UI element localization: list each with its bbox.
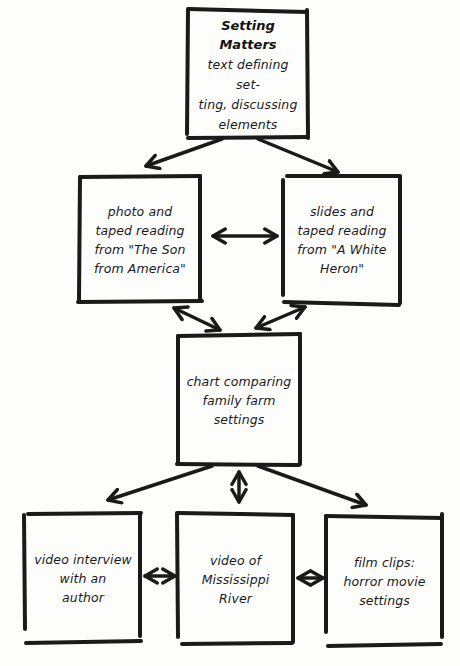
node-family-farm-chart: chart comparing family farm settings — [180, 338, 298, 462]
arrow-chart-to-film — [258, 466, 366, 505]
arrow-son-chart-bidirectional — [174, 308, 220, 330]
arrow-setting-to-son — [146, 139, 222, 166]
node-white-heron: slides and taped reading from "A White H… — [286, 180, 398, 300]
node-horror-film-clips-text: film clips: horror movie settings — [343, 553, 425, 610]
node-setting-matters-content: Setting Matters text defining set- ting,… — [196, 16, 300, 134]
arrow-chart-to-interview — [108, 466, 212, 500]
node-author-interview: video interview with an author — [27, 517, 139, 639]
node-horror-film-clips: film clips: horror movie settings — [329, 520, 440, 642]
node-white-heron-text: slides and taped reading from "A White H… — [297, 202, 386, 278]
node-family-farm-chart-text: chart comparing family farm settings — [187, 372, 292, 429]
node-setting-matters-text: text defining set- ting, discussing elem… — [199, 57, 298, 132]
node-author-interview-text: video interview with an author — [34, 550, 132, 607]
node-setting-matters-title: Setting Matters — [196, 16, 300, 54]
arrow-setting-to-heron — [258, 139, 338, 172]
node-son-from-america: photo and taped reading from "The Son fr… — [82, 180, 198, 300]
node-mississippi-river: video of Mississippi River — [180, 517, 291, 641]
arrow-heron-chart-bidirectional — [256, 307, 305, 328]
node-son-from-america-text: photo and taped reading from "The Son fr… — [94, 202, 186, 278]
node-setting-matters: Setting Matters text defining set- ting,… — [190, 14, 306, 136]
concept-map-canvas: Setting Matters text defining set- ting,… — [0, 0, 460, 666]
node-mississippi-river-text: video of Mississippi River — [202, 551, 270, 608]
